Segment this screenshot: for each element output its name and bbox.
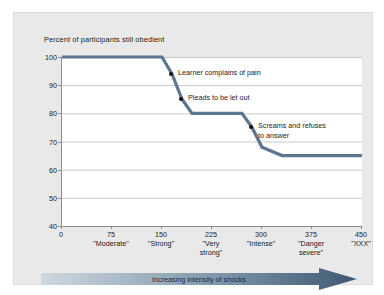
x-axis-tick-mark: [361, 226, 362, 229]
y-axis-tick-mark: [58, 113, 61, 114]
annotation-label: Screams and refuses to answer: [258, 121, 326, 139]
x-axis-tick-mark: [211, 226, 212, 229]
x-axis-tick-mark: [61, 226, 62, 229]
x-axis-tick-value: 450: [331, 230, 384, 239]
y-axis-tick-label: 90: [35, 81, 57, 90]
annotation-label: Learner complains of pain: [178, 68, 261, 77]
y-axis-tick-mark: [58, 57, 61, 58]
x-axis-tick-mark: [111, 226, 112, 229]
x-axis-tick-mark: [311, 226, 312, 229]
annotation-label: Pleads to be let out: [188, 93, 250, 102]
y-axis-tick-label: 70: [35, 138, 57, 147]
annotation-marker-dot: [179, 97, 183, 101]
annotation-marker-dot: [249, 125, 253, 129]
intensity-arrow: Increasing intensity of shocks: [41, 268, 357, 290]
x-axis-tick-descriptor: "XXX": [331, 239, 384, 248]
y-axis-tick-label: 60: [35, 166, 57, 175]
plot-area: [61, 57, 362, 227]
y-axis-tick-mark: [58, 170, 61, 171]
annotation-marker-dot: [169, 72, 173, 76]
x-axis-tick-mark: [261, 226, 262, 229]
arrow-label: Increasing intensity of shocks: [41, 268, 357, 290]
y-axis-tick-mark: [58, 85, 61, 86]
x-axis-tick-label: 450"XXX": [331, 230, 384, 248]
chart-title: Percent of participants still obedient: [44, 35, 164, 44]
y-axis-tick-mark: [58, 142, 61, 143]
chart-panel: Percent of participants still obedient 1…: [13, 12, 373, 285]
data-line-svg: [62, 57, 364, 228]
y-axis-tick-label: 100: [35, 53, 57, 62]
x-axis-tick-mark: [161, 226, 162, 229]
y-axis-tick-label: 50: [35, 194, 57, 203]
y-axis-tick-label: 80: [35, 109, 57, 118]
y-axis-tick-mark: [58, 198, 61, 199]
